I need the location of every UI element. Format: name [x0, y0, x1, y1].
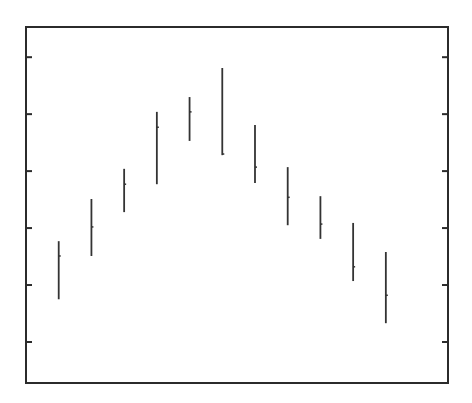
high-low-bar	[255, 125, 257, 183]
high-low-bar	[59, 241, 61, 299]
high-low-bar	[353, 223, 355, 281]
high-low-bar	[386, 252, 388, 323]
high-low-chart	[0, 0, 472, 403]
plot-frame	[26, 27, 448, 383]
high-low-bar	[157, 112, 159, 184]
frame-border	[26, 27, 448, 383]
high-low-bar	[190, 97, 192, 141]
high-low-bars	[59, 68, 388, 323]
high-low-bar	[222, 68, 224, 155]
high-low-bar	[91, 199, 93, 256]
high-low-bar	[124, 169, 126, 212]
high-low-bar	[320, 196, 322, 239]
high-low-bar	[288, 167, 290, 225]
